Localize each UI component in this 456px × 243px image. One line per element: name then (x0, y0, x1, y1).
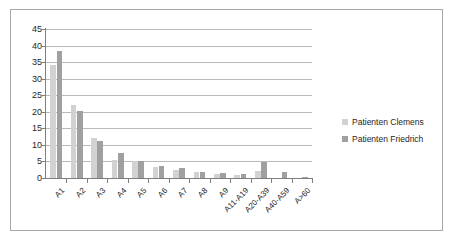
x-axis-tick-label-wrap: A2 (81, 179, 94, 192)
x-axis-tick-label-wrap: A4 (122, 179, 135, 192)
bar-group (46, 29, 312, 178)
y-axis-tick-label: 5 (20, 157, 42, 166)
x-axis-tick-label: A3 (94, 186, 107, 199)
legend-swatch-icon (342, 136, 348, 142)
y-axis-tick-label: 40 (20, 41, 42, 50)
y-axis-tick-labels: 051015202530354045 (17, 29, 42, 178)
x-axis-tick-label: A9 (217, 186, 230, 199)
plot-area (46, 29, 312, 178)
x-axis-tick-label: A2 (74, 186, 87, 199)
x-axis-tick-label-wrap: A1 (60, 179, 73, 192)
legend-entry[interactable]: Patienten Friedrich (342, 130, 442, 147)
x-axis-tick-label: A6 (156, 186, 169, 199)
y-axis-tick-label: 25 (20, 91, 42, 100)
x-axis-tick-label-wrap: A8 (203, 179, 216, 192)
x-axis-tick-label: A4 (115, 186, 128, 199)
x-axis-tick-label-wrap: A9 (224, 179, 237, 192)
y-axis-tick-label: 10 (20, 140, 42, 149)
x-axis-tick-label: A8 (197, 186, 210, 199)
x-axis-tick-label: A7 (176, 186, 189, 199)
x-axis-tick-label: A1 (53, 186, 66, 199)
y-axis-tick-label: 35 (20, 58, 42, 67)
x-axis-tick-label-wrap: A7 (183, 179, 196, 192)
x-axis-tick-label: A>60 (292, 186, 312, 206)
y-axis-tick-label: 15 (20, 124, 42, 133)
y-axis-tick-label: 20 (20, 107, 42, 116)
legend-entry[interactable]: Patienten Clemens (342, 113, 442, 130)
chart-legend: Patienten ClemensPatienten Friedrich (342, 113, 442, 147)
legend-swatch-icon (342, 119, 348, 125)
legend-label: Patienten Clemens (352, 117, 424, 127)
x-axis-tick-label: A5 (135, 186, 148, 199)
x-axis-tick-label-wrap: A6 (163, 179, 176, 192)
y-axis-tick-label: 45 (20, 25, 42, 34)
chart-frame: 051015202530354045 A1A2A3A4A5A6A7A8A9A11… (10, 9, 443, 231)
y-axis-tick-label: 0 (20, 174, 42, 183)
chart-figure: 051015202530354045 A1A2A3A4A5A6A7A8A9A11… (0, 0, 456, 243)
legend-label: Patienten Friedrich (352, 134, 423, 144)
x-axis-tick-label-wrap: A5 (142, 179, 155, 192)
y-axis-tick-label: 30 (20, 74, 42, 83)
x-axis-tick-label-wrap: A3 (101, 179, 114, 192)
